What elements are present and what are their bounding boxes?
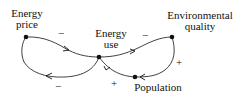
- edge-use-to-price: [22, 37, 99, 77]
- node-label-energy-price: Energy price: [6, 8, 48, 30]
- label-line: quality: [160, 21, 240, 32]
- node-dot-energy-price: [24, 35, 29, 40]
- sign-price-to-use: −: [58, 28, 64, 39]
- sign-population-to-use: +: [111, 78, 117, 89]
- node-label-energy-use: Energy use: [90, 28, 132, 50]
- sign-use-to-environment: −: [142, 30, 148, 41]
- label-line: price: [6, 19, 48, 30]
- sign-use-to-price: −: [55, 81, 61, 92]
- sign-environment-to-population: +: [176, 57, 182, 68]
- edge-price-to-use: [26, 37, 99, 57]
- node-label-population: Population: [130, 82, 186, 93]
- node-dot-energy-use: [97, 55, 102, 60]
- node-label-environmental-quality: Environmental quality: [160, 10, 240, 32]
- label-line: Population: [130, 82, 186, 93]
- node-dot-environmental-quality: [170, 35, 175, 40]
- label-line: use: [90, 39, 132, 50]
- edge-environment-to-population: [135, 37, 174, 77]
- node-dot-population: [133, 75, 138, 80]
